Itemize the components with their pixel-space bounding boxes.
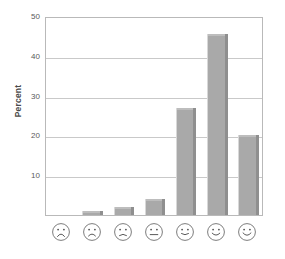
bar-slot-2 (77, 18, 108, 215)
bar-slot-3 (108, 18, 139, 215)
bar-5 (176, 108, 197, 215)
x-tick-6 (201, 219, 232, 245)
bar-2 (82, 211, 103, 215)
bar-chart: Percent 1020304050 (0, 0, 285, 259)
y-axis-tick-labels: 1020304050 (16, 0, 40, 259)
bar-slot-7 (233, 18, 264, 215)
plot-area (45, 17, 263, 216)
x-tick-3 (107, 219, 138, 245)
bar-4 (145, 199, 166, 215)
bar-slot-1 (46, 18, 77, 215)
slightly-happy-face-icon (175, 222, 195, 242)
y-tick-10: 10 (18, 172, 40, 180)
y-tick-40: 40 (18, 53, 40, 61)
slightly-unhappy-face-icon (113, 222, 133, 242)
x-tick-4 (138, 219, 169, 245)
bar-series (46, 18, 262, 215)
x-tick-7 (232, 219, 263, 245)
bar-slot-5 (171, 18, 202, 215)
bar-slot-6 (202, 18, 233, 215)
very-unhappy-face-icon (51, 222, 71, 242)
neutral-face-icon (144, 222, 164, 242)
x-tick-2 (76, 219, 107, 245)
bar-3 (114, 207, 135, 215)
chart-caption (45, 248, 263, 257)
x-axis-face-icons (45, 219, 263, 245)
bar-slot-4 (139, 18, 170, 215)
y-tick-50: 50 (18, 13, 40, 21)
bar-6 (207, 34, 228, 215)
y-tick-30: 30 (18, 93, 40, 101)
y-tick-20: 20 (18, 132, 40, 140)
x-tick-5 (170, 219, 201, 245)
unhappy-face-icon (82, 222, 102, 242)
bar-7 (238, 135, 259, 215)
x-tick-1 (45, 219, 76, 245)
happy-face-icon (206, 222, 226, 242)
very-happy-face-icon (237, 222, 257, 242)
